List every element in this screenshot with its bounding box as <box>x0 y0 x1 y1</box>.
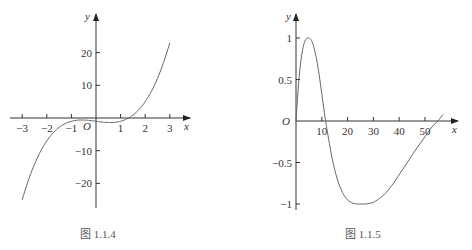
x-tick-label: −3 <box>16 122 28 134</box>
x-tick-label: 20 <box>342 125 354 137</box>
x-ticks: 1020304050 <box>316 117 431 137</box>
x-tick-label: 30 <box>368 125 380 137</box>
y-axis-label: y <box>84 10 90 22</box>
figure-caption: 图 1.1.4 <box>80 228 116 240</box>
x-tick-label: 1 <box>118 122 124 134</box>
x-tick-label: −2 <box>41 122 53 134</box>
figure-canvas: −3−2−1123 2010−10−20 x y O 图 1.1.4 10203… <box>0 0 472 250</box>
figure-caption: 图 1.1.5 <box>345 228 381 240</box>
y-tick-label: 10 <box>81 79 93 91</box>
x-tick-label: −1 <box>66 122 78 134</box>
x-axis-label: x <box>183 120 189 132</box>
chart-cubic: −3−2−1123 2010−10−20 x y O 图 1.1.4 <box>10 10 190 240</box>
y-tick-label: 0.5 <box>278 74 292 86</box>
origin-label: O <box>282 115 290 127</box>
y-tick-label: −0.5 <box>272 157 292 169</box>
x-ticks: −3−2−1123 <box>16 114 173 134</box>
y-tick-label: −20 <box>75 177 93 189</box>
x-tick-label: 3 <box>167 122 173 134</box>
y-axis-label: y <box>285 10 291 22</box>
chart-oscillating: 1020304050 10.5−0.5−1 x y O 图 1.1.5 <box>272 10 458 240</box>
x-axis-label: x <box>451 123 457 135</box>
y-tick-label: 20 <box>81 47 93 59</box>
origin-label: O <box>83 120 91 132</box>
x-tick-label: 40 <box>394 125 406 137</box>
y-tick-label: −10 <box>75 145 93 157</box>
x-tick-label: 2 <box>142 122 148 134</box>
y-tick-label: 1 <box>287 32 293 44</box>
y-tick-label: −1 <box>280 198 292 210</box>
